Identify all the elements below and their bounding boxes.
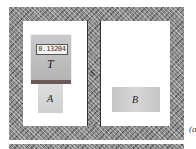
block-b-label: B [132, 94, 138, 105]
figure-caption: (a [189, 124, 196, 134]
block-a-label: A [47, 93, 53, 104]
thermometer-display: 0.13204 [36, 44, 68, 55]
next-figure-border [9, 144, 184, 149]
thermometer-label: T [47, 57, 54, 72]
separator-label: S [90, 68, 95, 78]
